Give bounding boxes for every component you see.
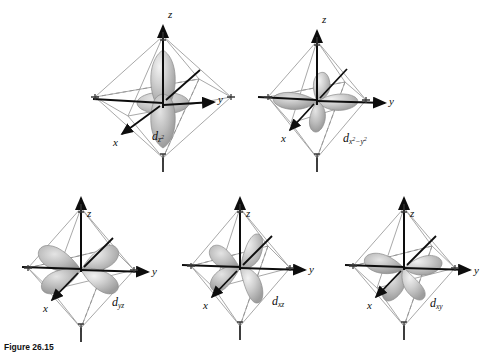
orbital-lobe-dxz-lower-left	[210, 266, 240, 292]
axis-label-z-dyz: z	[87, 207, 91, 219]
axis-label-y-dz2: y	[218, 93, 223, 105]
orbital-panel-dyz	[22, 198, 148, 342]
axis-label-x-dxy: x	[367, 299, 372, 311]
d-orbital-diagram	[0, 0, 496, 353]
orbital-label-dyz: dyz	[112, 295, 124, 310]
axis-label-z-dz2: z	[168, 8, 172, 20]
orbital-label-dz2: dz2	[152, 129, 164, 144]
orbital-label-dxz: dxz	[272, 294, 284, 309]
axis-label-y-dxz: y	[309, 263, 314, 275]
orbital-panel-dxy	[345, 198, 470, 340]
axis-label-x-dz2: x	[113, 136, 118, 148]
orbital-panel-dxz	[182, 198, 305, 340]
axis-label-y-dx2y2: y	[389, 95, 394, 107]
orbital-lobe-dxy-right-back	[404, 255, 442, 275]
axis-label-z-dxz: z	[246, 207, 250, 219]
axis-label-y-dyz: y	[152, 265, 157, 277]
axis-label-x-dxz: x	[203, 299, 208, 311]
orbital-lobe-dxy-left-back	[364, 253, 404, 273]
axis-label-x-dx2y2: x	[281, 132, 286, 144]
orbital-label-dxy: dxy	[430, 296, 443, 311]
orbital-label-dx2y2: dx2−y2	[343, 131, 367, 146]
figure-canvas: z y x dz2 z y x dx2−y2 z y x dyz z y x d…	[0, 0, 496, 353]
orbital-panel-dz2	[93, 26, 231, 172]
axis-label-y-dxy: y	[474, 264, 479, 276]
octahedron-hidden-edges-dz2	[95, 79, 199, 158]
axis-label-z-dx2y2: z	[322, 13, 326, 25]
figure-caption: Figure 26.15	[4, 342, 54, 353]
orbital-lobe-dxz-lower-right	[240, 267, 263, 303]
axis-label-z-dxy: z	[410, 207, 414, 219]
axis-label-x-dyz: x	[43, 302, 48, 314]
